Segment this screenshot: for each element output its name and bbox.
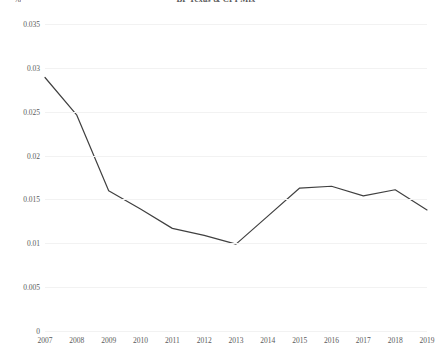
x-axis-tick-label: 2008 (69, 336, 84, 345)
gridline (45, 112, 427, 113)
gridline (45, 243, 427, 244)
y-axis-tick-label: 0 (36, 327, 40, 336)
x-axis-tick-label: 2015 (292, 336, 307, 345)
plot-area: 00.0050.010.0150.020.0250.030.0352007200… (45, 24, 427, 331)
y-axis-tick-label: 0.03 (27, 63, 40, 72)
gridline (45, 287, 427, 288)
y-axis-tick-label: 0.035 (23, 20, 40, 29)
y-axis-tick-label: 0.015 (23, 195, 40, 204)
y-axis-tick-label: 0.005 (23, 283, 40, 292)
y-axis-tick-label: 0.01 (27, 239, 40, 248)
y-axis-tick-label: 0.025 (23, 107, 40, 116)
chart-title: BP Texas & CPI Mix (0, 0, 432, 3)
x-axis-tick-label: 2007 (38, 336, 53, 345)
gridline (45, 331, 427, 332)
gridline (45, 68, 427, 69)
x-axis-tick-label: 2016 (324, 336, 339, 345)
x-axis-tick-label: 2019 (420, 336, 435, 345)
x-axis-tick-label: 2017 (356, 336, 371, 345)
x-axis-tick-label: 2011 (165, 336, 180, 345)
x-axis-tick-label: 2014 (260, 336, 275, 345)
data-series-line (45, 24, 427, 331)
x-axis-tick-label: 2012 (197, 336, 212, 345)
gridline (45, 24, 427, 25)
gridline (45, 199, 427, 200)
x-axis-tick-label: 2018 (388, 336, 403, 345)
series-polyline (45, 78, 427, 245)
y-axis-tick-label: 0.02 (27, 151, 40, 160)
gridline (45, 156, 427, 157)
x-axis-tick-label: 2013 (229, 336, 244, 345)
x-axis-tick-label: 2010 (133, 336, 148, 345)
x-axis-tick-label: 2009 (101, 336, 116, 345)
